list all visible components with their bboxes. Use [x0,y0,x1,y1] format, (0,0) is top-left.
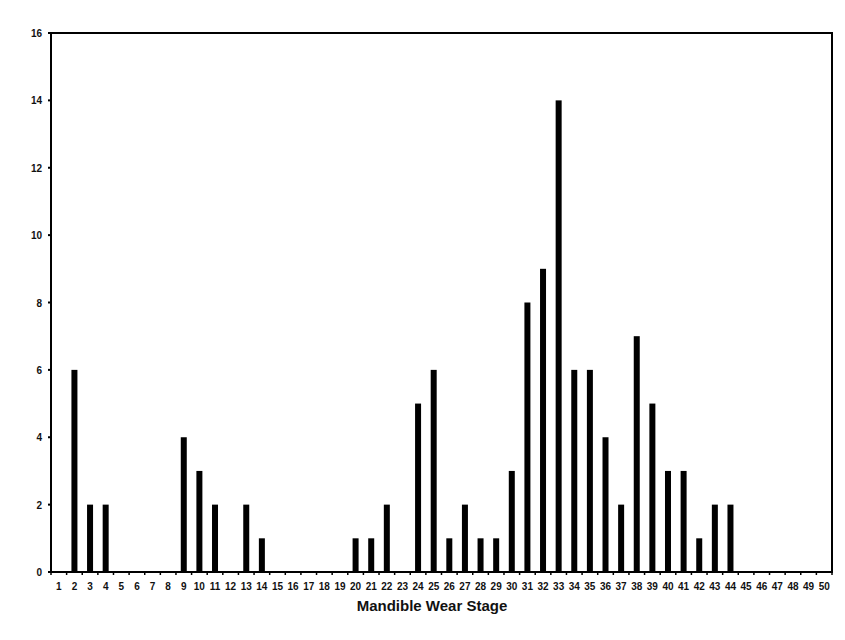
bar [196,471,202,572]
bar [212,505,218,572]
x-tick-label: 3 [87,581,93,592]
x-tick-label: 16 [288,581,300,592]
bar [681,471,687,572]
x-tick-label: 12 [225,581,237,592]
bar [353,538,359,572]
x-tick-label: 33 [553,581,565,592]
x-tick-label: 6 [134,581,140,592]
bars [71,100,733,572]
x-tick-label: 29 [491,581,503,592]
x-tick-label: 5 [119,581,125,592]
bar [87,505,93,572]
x-tick-label: 45 [741,581,753,592]
y-tick-label: 14 [31,95,43,106]
bar [727,505,733,572]
x-tick-label: 14 [256,581,268,592]
x-tick-label: 13 [241,581,253,592]
x-tick-label: 24 [413,581,425,592]
y-tick-label: 2 [36,500,42,511]
bar [478,538,484,572]
bar [603,437,609,572]
bar [712,505,718,572]
x-tick-label: 1 [56,581,62,592]
x-tick-label: 10 [194,581,206,592]
bar [618,505,624,572]
bar [649,404,655,572]
x-tick-label: 34 [569,581,581,592]
x-tick-label: 27 [459,581,471,592]
bar [634,336,640,572]
x-tick-label: 32 [537,581,549,592]
x-tick-label: 18 [319,581,331,592]
bar [571,370,577,572]
x-tick-label: 25 [428,581,440,592]
x-tick-label: 20 [350,581,362,592]
x-tick-label: 17 [303,581,315,592]
x-tick-label: 49 [803,581,815,592]
x-tick-label: 11 [210,581,221,592]
bar-chart: 0246810121416 12345678910111213141516171… [0,0,845,640]
y-tick-label: 16 [31,28,43,39]
x-tick-label: 40 [662,581,674,592]
bar [540,269,546,572]
x-tick-label: 30 [506,581,518,592]
x-tick-label: 48 [787,581,799,592]
x-tick-label: 47 [772,581,784,592]
bar [509,471,515,572]
bar [696,538,702,572]
x-tick-label: 8 [165,581,171,592]
bar [446,538,452,572]
x-tick-label: 26 [444,581,456,592]
x-tick-label: 9 [181,581,187,592]
y-tick-label: 6 [36,365,42,376]
bar [384,505,390,572]
x-tick-label: 7 [150,581,156,592]
x-tick-label: 28 [475,581,487,592]
y-tick-label: 10 [31,230,43,241]
y-tick-label: 4 [36,432,42,443]
x-tick-label: 31 [522,581,534,592]
x-tick-label: 41 [678,581,690,592]
x-tick-label: 42 [694,581,706,592]
x-tick-label: 43 [709,581,721,592]
x-tick-label: 19 [334,581,346,592]
x-tick-label: 15 [272,581,284,592]
bar [462,505,468,572]
bar [181,437,187,572]
bar [71,370,77,572]
y-axis: 0246810121416 [31,28,51,578]
bar [103,505,109,572]
x-tick-label: 21 [366,581,378,592]
x-tick-label: 50 [819,581,831,592]
bar [665,471,671,572]
y-tick-label: 0 [36,567,42,578]
bar [243,505,249,572]
x-tick-label: 22 [381,581,393,592]
x-tick-label: 2 [72,581,78,592]
x-tick-label: 4 [103,581,109,592]
x-tick-label: 23 [397,581,409,592]
bar [493,538,499,572]
x-tick-label: 44 [725,581,737,592]
x-tick-label: 36 [600,581,612,592]
x-tick-label: 46 [756,581,768,592]
x-axis-title: Mandible Wear Stage [357,597,508,614]
bar [431,370,437,572]
bar [587,370,593,572]
x-axis: 1234567891011121314151617181920212223242… [51,572,832,592]
bar [368,538,374,572]
bar [524,303,530,573]
x-tick-label: 35 [584,581,596,592]
x-tick-label: 39 [647,581,659,592]
bar [556,100,562,572]
y-tick-label: 8 [36,298,42,309]
x-tick-label: 38 [631,581,643,592]
x-tick-label: 37 [616,581,628,592]
y-tick-label: 12 [31,163,43,174]
bar [415,404,421,572]
plot-frame [51,33,832,572]
bar [259,538,265,572]
